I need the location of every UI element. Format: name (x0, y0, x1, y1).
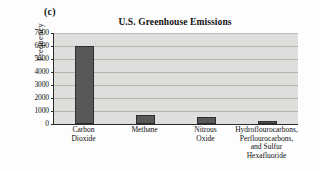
y-axis-tick (51, 46, 54, 47)
x-axis-category-label-line: Oxide (180, 135, 232, 144)
y-axis-tick-label: 2000 (15, 94, 49, 102)
chart-title: U.S. Greenhouse Emissions (53, 17, 297, 27)
y-axis-tick-label: 1000 (15, 107, 49, 115)
y-axis-tick-label: 7000 (15, 29, 49, 37)
bar (75, 46, 94, 124)
x-axis-category-label-line: Dioxide (58, 135, 110, 144)
y-axis-tick (51, 33, 54, 34)
y-axis-tick (51, 98, 54, 99)
y-axis-tick (51, 59, 54, 60)
y-axis-tick-labels: 01000200030004000500060007000 (13, 33, 49, 124)
bar (136, 115, 155, 124)
y-axis-tick (51, 124, 54, 125)
gridline (54, 33, 298, 34)
chart-screenshot: (c) U.S. Greenhouse Emissions Frequency … (0, 0, 320, 171)
x-axis-category-label: Hydroflourocarbons,Perflourocarbons,and … (227, 126, 307, 160)
x-axis-category-label: NitrousOxide (180, 126, 232, 143)
x-axis-category-label: CarbonDioxide (58, 126, 110, 143)
y-axis-tick (51, 85, 54, 86)
x-axis-category-label-line: Hexafluoride (227, 152, 307, 161)
y-axis-tick-label: 6000 (15, 42, 49, 50)
y-axis-tick-label: 4000 (15, 68, 49, 76)
y-axis-tick-label: 5000 (15, 55, 49, 63)
y-axis-tick (51, 111, 54, 112)
y-axis-tick (51, 72, 54, 73)
plot-area (53, 33, 298, 125)
y-axis-tick-label: 0 (15, 120, 49, 128)
x-axis-category-labels: CarbonDioxideMethaneNitrousOxideHydroflo… (53, 126, 297, 171)
x-axis-category-label-line: Methane (119, 126, 171, 135)
bar (258, 121, 277, 124)
bar (197, 117, 216, 124)
x-axis-category-label: Methane (119, 126, 171, 135)
y-axis-tick-label: 3000 (15, 81, 49, 89)
